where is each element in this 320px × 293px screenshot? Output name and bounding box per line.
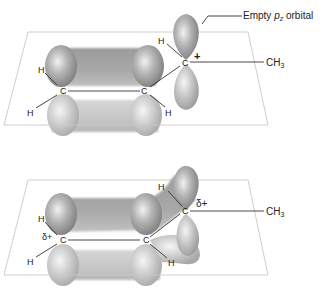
carbon-2-label: C: [143, 235, 150, 245]
hydrogen-3-label: H: [165, 108, 172, 118]
methyl-label: CH3: [266, 206, 284, 218]
empty-pz-orbital-callout: Empty pz orbital: [243, 10, 313, 22]
carbon-3-label: C: [182, 58, 189, 68]
hydrogen-2-label: H: [27, 257, 34, 267]
upper-pi-lobes: [45, 45, 164, 87]
carbon-3-label: C: [182, 206, 189, 216]
carbon-1-label: C: [60, 235, 67, 245]
positive-charge-label: +: [194, 50, 200, 62]
delocalized-cation-diagram: C C C H H H H δ+ δ+ CH3: [4, 166, 284, 286]
carbon-1-label: C: [60, 86, 67, 96]
lower-pi-lobes: [47, 94, 162, 136]
hydrogen-4-label: H: [158, 36, 165, 46]
hydrogen-4-label: H: [158, 182, 165, 192]
hydrogen-1-label: H: [38, 65, 45, 75]
partial-charge-c3-label: δ+: [196, 198, 208, 209]
hydrogen-2-label: H: [27, 108, 34, 118]
hydrogen-1-label: H: [38, 214, 45, 224]
partial-charge-c1-label: δ+: [42, 232, 52, 242]
orbital-diagram: C C C H H H H + CH3 Empty pz orbital: [0, 0, 320, 293]
hydrogen-3-label: H: [168, 258, 175, 268]
carbon-2-label: C: [141, 86, 148, 96]
localized-cation-diagram: C C C H H H H + CH3 Empty pz orbital: [4, 10, 313, 136]
methyl-label: CH3: [266, 57, 284, 69]
